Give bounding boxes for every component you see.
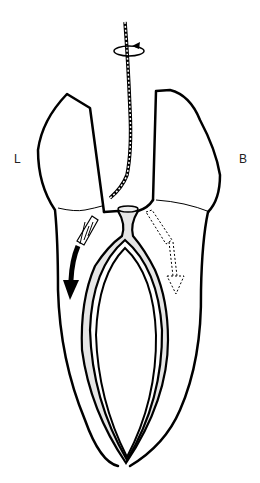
endodontic-file [110, 22, 131, 198]
tooth-diagram [0, 0, 260, 483]
pulp-canal [82, 206, 168, 463]
rotation-arrow-icon [114, 42, 144, 56]
